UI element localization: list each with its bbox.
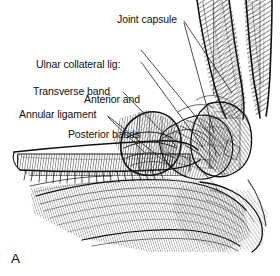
label-transverse-band: Transverse band <box>33 86 110 98</box>
panel-letter: A <box>11 251 20 266</box>
label-ulnar-collateral-lig: Ulnar collateral lig: <box>36 59 140 71</box>
anatomy-figure: Joint capsule Ulnar collateral lig: Ante… <box>0 0 280 276</box>
label-annular-ligament: Annular ligament <box>19 109 96 121</box>
label-joint-capsule: Joint capsule <box>117 14 177 26</box>
label-posterior-bands: Posterior bands <box>36 129 140 141</box>
label-ulnar-collateral-ligament-block: Ulnar collateral lig: Anterior and Poste… <box>36 36 140 164</box>
